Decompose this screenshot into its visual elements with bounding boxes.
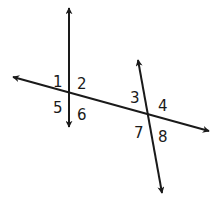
angle-label-4: 4 [158,97,168,115]
transversal-line [13,77,209,131]
angle-label-1: 1 [53,73,63,91]
angle-label-2: 2 [77,75,87,93]
angle-label-7: 7 [134,124,144,142]
angle-label-5: 5 [53,99,63,117]
angle-label-6: 6 [77,106,87,124]
angle-label-3: 3 [130,89,140,107]
parallel-lines-transversal-diagram: 1 2 3 4 5 6 7 8 [0,0,222,203]
angle-label-8: 8 [158,128,168,146]
